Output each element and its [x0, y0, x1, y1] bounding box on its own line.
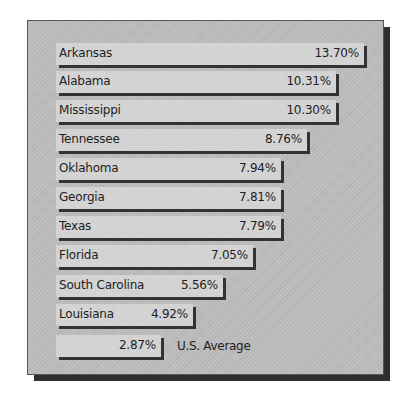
bar: 2.87%: [56, 335, 161, 357]
us-average-label: U.S. Average: [177, 339, 251, 353]
bar-label: Arkansas: [59, 46, 112, 60]
bar-label: Oklahoma: [59, 161, 118, 175]
bar-label: Louisiana: [59, 307, 114, 321]
bar-label: Alabama: [59, 74, 111, 88]
bar-row: Florida7.05%: [56, 245, 257, 267]
bar-row-us-average: 2.87%U.S. Average: [56, 335, 165, 357]
bar-row: Arkansas13.70%: [56, 43, 368, 65]
bar: Oklahoma7.94%: [56, 158, 281, 180]
bar-row: Mississippi10.30%: [56, 100, 340, 122]
bar-value: 13.70%: [314, 46, 359, 60]
bar-value: 4.92%: [151, 307, 188, 321]
bar-value: 7.79%: [239, 219, 276, 233]
bar: Arkansas13.70%: [56, 43, 364, 65]
bar: Tennessee8.76%: [56, 129, 307, 151]
bar-value: 8.76%: [265, 132, 302, 146]
bar: Alabama10.31%: [56, 71, 336, 93]
bar-label: Texas: [59, 219, 91, 233]
bar: South Carolina5.56%: [56, 275, 223, 297]
bar-row: Oklahoma7.94%: [56, 158, 285, 180]
chart-panel: Arkansas13.70%Alabama10.31%Mississippi10…: [27, 20, 384, 375]
bar-label: Tennessee: [59, 132, 120, 146]
bar: Florida7.05%: [56, 245, 253, 267]
bar-value: 10.31%: [286, 74, 331, 88]
bar-row: Georgia7.81%: [56, 187, 285, 209]
bar-value: 7.81%: [239, 190, 276, 204]
bar-label: Georgia: [59, 190, 105, 204]
bar-row: Texas7.79%: [56, 216, 285, 238]
bar-row: Tennessee8.76%: [56, 129, 311, 151]
bar: Mississippi10.30%: [56, 100, 336, 122]
bar-row: Louisiana4.92%: [56, 304, 197, 326]
bar-value: 5.56%: [181, 278, 218, 292]
bar-value: 7.05%: [211, 248, 248, 262]
bar: Texas7.79%: [56, 216, 281, 238]
bar-value: 7.94%: [239, 161, 276, 175]
bar-row: Alabama10.31%: [56, 71, 340, 93]
bar-label: Mississippi: [59, 103, 121, 117]
bar-label: Florida: [59, 248, 98, 262]
bar-value: 10.30%: [286, 103, 331, 117]
bar: Louisiana4.92%: [56, 304, 193, 326]
bar: Georgia7.81%: [56, 187, 281, 209]
bar-label: South Carolina: [59, 278, 144, 292]
bar-row: South Carolina5.56%: [56, 275, 227, 297]
bar-value: 2.87%: [119, 338, 156, 352]
